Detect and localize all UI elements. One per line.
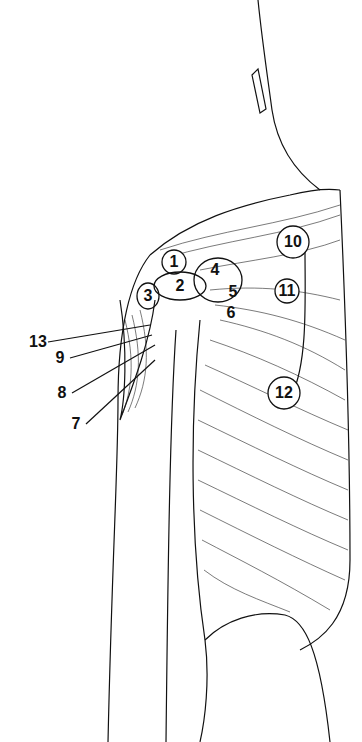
label-8: 8 bbox=[58, 385, 67, 401]
label-11: 11 bbox=[279, 283, 296, 299]
anatomy-illustration bbox=[0, 0, 362, 742]
label-2: 2 bbox=[176, 278, 185, 294]
label-4: 4 bbox=[211, 262, 220, 278]
label-6: 6 bbox=[227, 305, 236, 321]
label-9: 9 bbox=[56, 350, 65, 366]
label-5: 5 bbox=[229, 284, 238, 300]
label-7: 7 bbox=[72, 416, 81, 432]
label-3: 3 bbox=[144, 288, 153, 304]
label-1: 1 bbox=[170, 254, 179, 270]
label-10: 10 bbox=[284, 234, 302, 250]
label-13: 13 bbox=[29, 334, 47, 350]
label-12: 12 bbox=[275, 385, 293, 401]
